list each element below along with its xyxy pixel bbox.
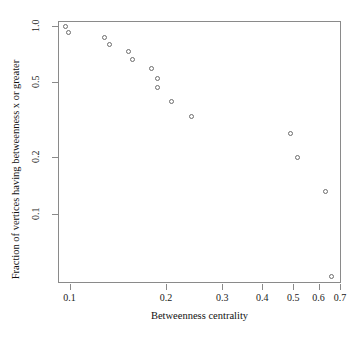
- y-axis-tick-label: 1.0: [30, 9, 42, 43]
- data-point: [329, 274, 334, 279]
- data-point: [155, 76, 160, 81]
- y-axis-title: Fraction of vertices having betweenness …: [8, 0, 24, 339]
- x-axis-tick-label: 0.7: [334, 292, 347, 303]
- x-axis-title: Betweenness centrality: [58, 310, 341, 321]
- data-point: [189, 114, 194, 119]
- data-point: [149, 66, 154, 71]
- y-axis-tick-label: 0.1: [30, 197, 42, 231]
- x-axis-tick: [166, 284, 167, 290]
- x-axis-tick: [319, 284, 320, 290]
- x-axis-tick-label: 0.4: [256, 292, 269, 303]
- data-point: [63, 24, 68, 29]
- data-point: [295, 155, 300, 160]
- data-point: [323, 189, 328, 194]
- x-axis-tick: [70, 284, 71, 290]
- x-axis-tick-label: 0.5: [287, 292, 300, 303]
- data-point: [169, 99, 174, 104]
- x-axis-tick: [293, 284, 294, 290]
- y-axis-tick-label: 0.5: [30, 65, 42, 99]
- x-axis-tick-label: 0.3: [216, 292, 229, 303]
- data-point: [102, 35, 107, 40]
- x-axis-tick: [340, 284, 341, 290]
- scatter-plot-figure: Fraction of vertices having betweenness …: [0, 0, 363, 339]
- x-axis-tick: [222, 284, 223, 290]
- y-axis-title-holder: Fraction of vertices having betweenness …: [8, 0, 24, 339]
- data-point: [126, 49, 131, 54]
- x-axis-tick-label: 0.2: [160, 292, 173, 303]
- y-axis-tick-label: 0.2: [30, 140, 42, 174]
- data-point: [288, 131, 293, 136]
- x-axis-tick-label: 0.1: [63, 292, 76, 303]
- data-point: [66, 30, 71, 35]
- data-point: [130, 57, 135, 62]
- x-axis-tick: [262, 284, 263, 290]
- data-point: [107, 42, 112, 47]
- plot-panel: [58, 21, 341, 283]
- x-axis-tick-label: 0.6: [312, 292, 325, 303]
- data-point: [155, 85, 160, 90]
